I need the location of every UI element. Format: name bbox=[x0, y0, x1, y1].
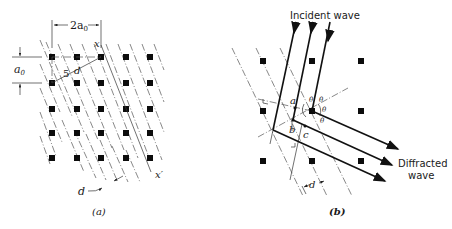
label-spacing-d: d bbox=[78, 185, 85, 198]
label-incident-wave: Incident wave bbox=[290, 10, 360, 21]
label-x: x bbox=[94, 38, 100, 49]
theta-4: θ bbox=[320, 117, 325, 125]
panel-b: a b c θ θ θ θ Incident wave Diffracted w… bbox=[232, 10, 448, 217]
point-c-marker bbox=[304, 125, 307, 128]
panel-a: 2a0 a0 x x′ 5 d d (a) bbox=[12, 19, 164, 217]
label-x-prime: x′ bbox=[155, 169, 164, 180]
label-c: c bbox=[303, 129, 309, 140]
diffraction-figure: 2a0 a0 x x′ 5 d d (a) bbox=[0, 0, 452, 229]
label-b: b bbox=[289, 124, 295, 135]
label-2a0: 2a0 bbox=[70, 19, 88, 33]
label-a0: a0 bbox=[14, 63, 26, 77]
theta-3: θ bbox=[322, 106, 327, 114]
point-a-marker bbox=[294, 107, 297, 110]
label-wave: wave bbox=[408, 170, 434, 181]
label-diag-d: d bbox=[74, 65, 80, 76]
label-diffracted: Diffracted bbox=[398, 158, 448, 169]
theta-2: θ bbox=[319, 96, 324, 104]
label-5: 5 bbox=[63, 68, 69, 79]
height-dimension-a0: a0 bbox=[12, 47, 42, 95]
point-b-marker bbox=[291, 118, 294, 121]
caption-a: (a) bbox=[92, 206, 106, 217]
spacing-d-annotation: d bbox=[78, 176, 123, 198]
label-a: a bbox=[290, 95, 296, 106]
spacing-d-annotation-b: d bbox=[302, 179, 324, 194]
label-spacing-d-b: d bbox=[309, 179, 315, 190]
caption-b: (b) bbox=[329, 206, 346, 217]
